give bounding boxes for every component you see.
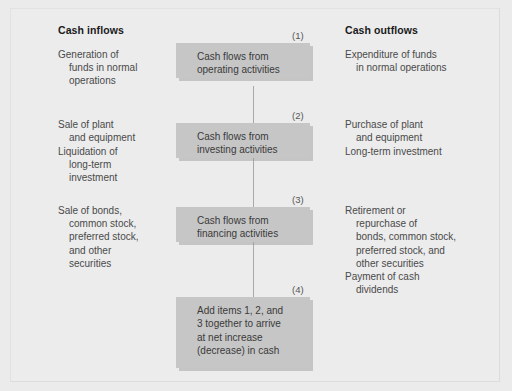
diagram-canvas: Cash inflows Generation of funds in norm… (0, 0, 512, 391)
flow-connector-line (253, 86, 254, 308)
outflow-item-purchase-of-plant: Purchase of plant and equipment (345, 118, 506, 144)
outflow-item-retirement-repurchase: Retirement or repurchase of bonds, commo… (345, 204, 506, 270)
outflow-item-payment-of-dividends: Payment of cash dividends (345, 270, 506, 296)
node-net-increase-summary[interactable]: Add items 1, 2, and 3 together to arrive… (176, 297, 310, 368)
inflow-item-generation-of-funds: Generation of funds in normal operations (58, 48, 184, 88)
node-investing-activities[interactable]: Cash flows from investing activities (176, 123, 310, 158)
outflow-item-long-term-investment: Long-term investment (345, 145, 506, 158)
cash-inflows-header: Cash inflows (58, 24, 124, 36)
node-financing-activities[interactable]: Cash flows from financing activities (176, 207, 310, 242)
node-number-4: (4) (292, 284, 304, 295)
node-number-1: (1) (292, 30, 304, 41)
outflow-item-expenditure-of-funds: Expenditure of funds in normal operation… (345, 48, 506, 74)
inflow-item-sale-of-bonds: Sale of bonds, common stock, preferred s… (58, 204, 184, 270)
node-number-3: (3) (292, 194, 304, 205)
diagram-frame: Cash inflows Generation of funds in norm… (10, 8, 500, 382)
node-operating-activities[interactable]: Cash flows from operating activities (176, 43, 310, 78)
node-number-2: (2) (292, 110, 304, 121)
cash-outflows-header: Cash outflows (345, 24, 418, 36)
inflow-item-sale-of-plant: Sale of plant and equipment (58, 118, 184, 144)
inflow-item-liquidation-of-investment: Liquidation of long-term investment (58, 145, 184, 185)
